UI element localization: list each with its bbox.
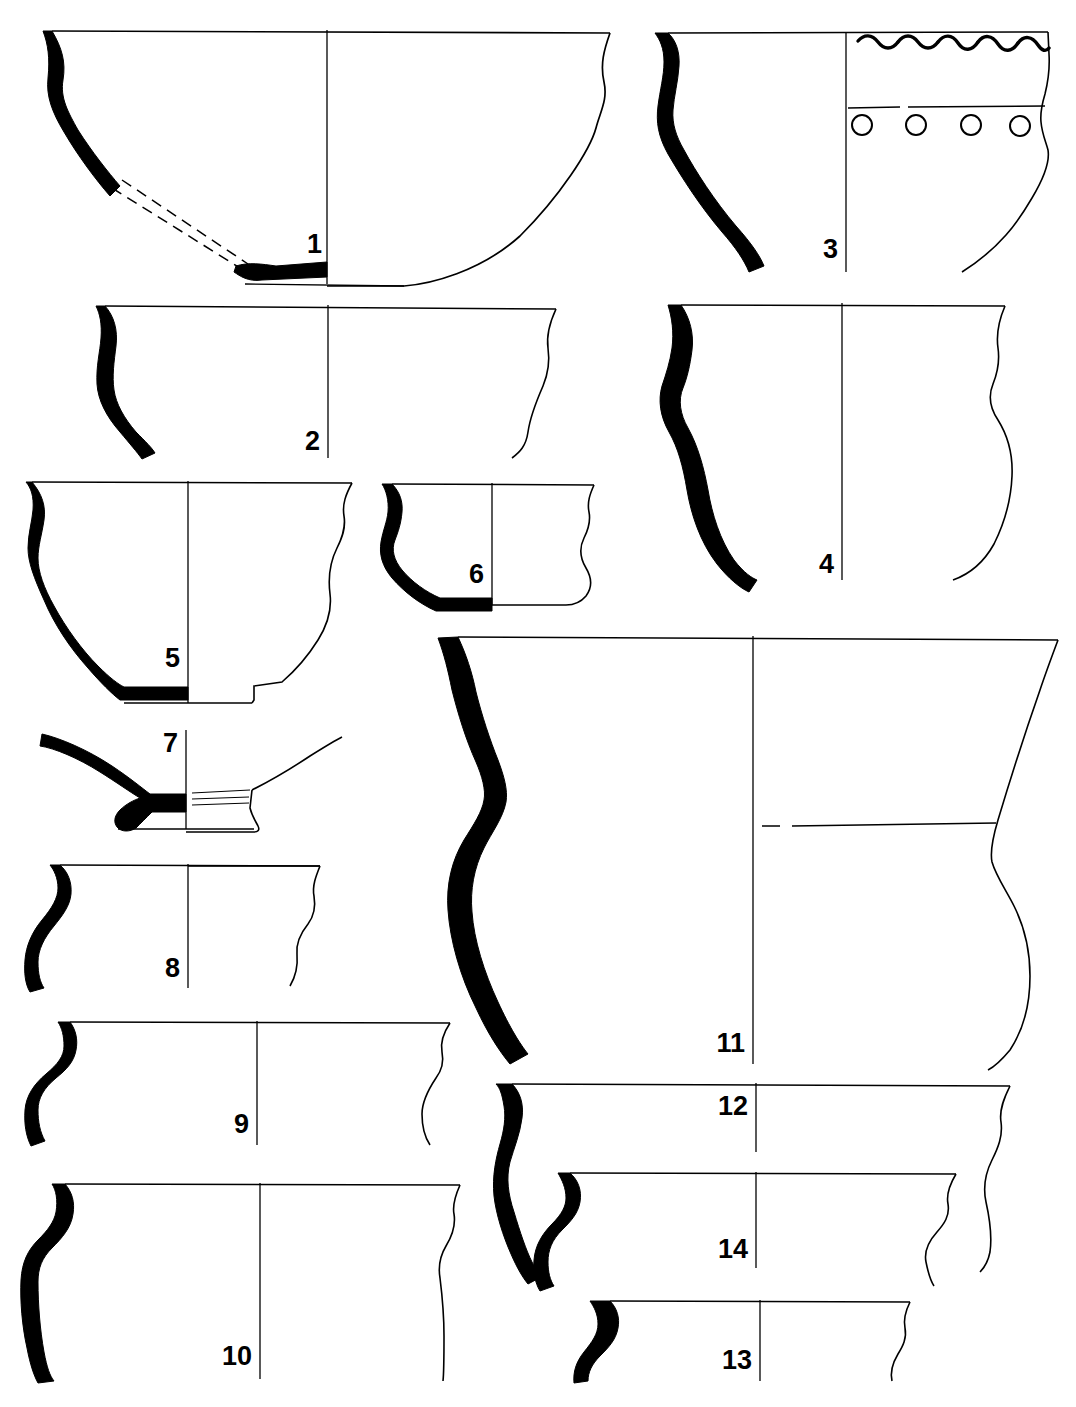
vessel-9-drawing: 9 <box>25 1021 450 1146</box>
vessel-3-left-profile <box>655 33 764 272</box>
vessel-9-number: 9 <box>234 1109 249 1139</box>
vessel-6-left-profile <box>380 484 492 611</box>
vessel-12-number: 12 <box>718 1091 748 1121</box>
vessel-11-carination-line <box>762 823 996 826</box>
vessel-9-right-outline <box>422 1023 450 1145</box>
vessel-6-rim-line <box>392 484 594 485</box>
vessel-11-number: 11 <box>716 1028 745 1058</box>
vessel-1-reconstruction-dash-outer <box>112 188 240 268</box>
vessel-11-rim-line <box>458 637 1058 640</box>
vessel-4-number: 4 <box>819 549 834 579</box>
vessel-13-drawing: 13 <box>574 1300 910 1383</box>
vessel-1-rim-line <box>52 31 610 33</box>
vessel-11-drawing: 11 <box>438 636 1058 1070</box>
vessel-10-number: 10 <box>222 1341 252 1371</box>
vessel-3-drawing: 3 <box>655 32 1049 272</box>
vessel-7-footring-right <box>186 790 259 832</box>
vessel-1-drawing: 1 <box>43 30 610 286</box>
vessel-14-left-profile <box>534 1173 581 1291</box>
vessel-7-incised-lines <box>192 790 250 805</box>
vessel-4-right-outline <box>953 306 1012 580</box>
vessel-10-rim-line <box>65 1184 460 1185</box>
vessel-6-drawing: 6 <box>380 483 594 611</box>
vessel-7-drawing: 7 <box>40 728 342 832</box>
vessel-1-reconstruction-dash-inner <box>122 180 248 264</box>
vessel-2-drawing: 2 <box>96 305 556 459</box>
plate-drawing: 1 <box>0 0 1076 1407</box>
vessel-10-left-profile <box>21 1184 74 1383</box>
vessel-11-right-outline <box>988 640 1058 1070</box>
vessel-10-drawing: 10 <box>21 1183 460 1383</box>
vessel-5-right-outline <box>252 483 352 703</box>
vessel-13-number: 13 <box>722 1345 752 1375</box>
vessel-13-right-outline <box>891 1302 910 1381</box>
vessel-5-drawing: 5 <box>26 481 352 703</box>
vessel-8-number: 8 <box>165 953 180 983</box>
vessel-8-drawing: 8 <box>25 864 320 992</box>
vessel-3-right-outline <box>962 32 1049 272</box>
vessel-3-rim-line <box>668 32 1048 33</box>
vessel-2-left-profile <box>96 306 155 459</box>
vessel-14-rim-line <box>570 1173 956 1174</box>
vessel-14-drawing: 14 <box>534 1172 956 1291</box>
vessel-4-drawing: 4 <box>660 303 1012 592</box>
vessel-9-rim-line <box>70 1022 450 1023</box>
vessel-12-rim-line <box>512 1084 1010 1086</box>
vessel-5-left-profile <box>26 482 188 700</box>
vessel-1-left-profile <box>43 31 120 196</box>
vessel-2-number: 2 <box>305 426 320 456</box>
vessel-2-right-outline <box>512 309 556 458</box>
vessel-8-right-outline <box>290 866 320 986</box>
vessel-5-rim-line <box>32 482 352 483</box>
vessel-1-right-outline <box>327 33 610 286</box>
vessel-1-base-profile <box>234 262 327 280</box>
vessel-14-number: 14 <box>718 1234 748 1264</box>
vessel-13-left-profile <box>574 1301 619 1383</box>
vessel-14-right-outline <box>925 1174 956 1286</box>
vessel-3-wavy-decoration <box>858 36 1049 51</box>
vessel-3-number: 3 <box>823 234 838 264</box>
vessel-1-number: 1 <box>307 229 322 259</box>
vessel-5-number: 5 <box>165 643 180 673</box>
vessel-12-right-outline <box>980 1086 1010 1272</box>
vessel-3-punctate-circles <box>852 115 1030 136</box>
pottery-profile-plate: 1 <box>0 0 1076 1407</box>
vessel-9-left-profile <box>25 1022 77 1146</box>
vessel-4-rim-line <box>681 305 1005 306</box>
vessel-6-number: 6 <box>469 559 484 589</box>
vessel-11-left-profile <box>438 637 528 1064</box>
vessel-7-right-outline <box>252 737 342 790</box>
vessel-8-left-profile <box>25 865 71 992</box>
vessel-7-number: 7 <box>163 728 178 758</box>
vessel-4-left-profile <box>660 305 757 592</box>
vessel-6-right-outline <box>492 485 594 605</box>
vessel-2-rim-line <box>105 306 556 309</box>
vessel-1-base-line <box>245 284 404 286</box>
vessel-10-right-outline <box>439 1185 460 1381</box>
vessel-3-incised-line <box>848 106 1045 108</box>
